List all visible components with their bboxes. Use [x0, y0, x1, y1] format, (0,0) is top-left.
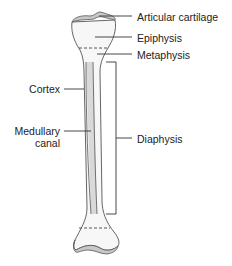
diaphysis-bracket — [106, 62, 116, 214]
bone-outline — [72, 20, 119, 250]
label-metaphysis: Metaphysis — [137, 49, 190, 61]
label-articular-cartilage: Articular cartilage — [137, 11, 218, 23]
label-cortex: Cortex — [26, 83, 60, 95]
long-bone — [72, 12, 119, 254]
label-diaphysis: Diaphysis — [137, 133, 183, 145]
label-medullary-line2: canal — [6, 137, 60, 149]
label-epiphysis: Epiphysis — [137, 32, 182, 44]
label-medullary-line1: Medullary — [6, 125, 60, 137]
